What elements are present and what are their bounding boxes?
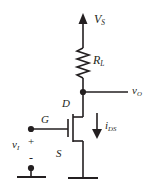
gate-label: G <box>41 114 49 125</box>
zigzag-resistor-icon <box>77 48 89 78</box>
schematic-svg <box>0 0 154 189</box>
drain-current-label: iDS <box>105 120 116 131</box>
supply-label: VS <box>94 13 105 25</box>
arrow-down-icon <box>92 129 102 139</box>
polarity-minus: - <box>29 152 33 164</box>
source-label: S <box>56 148 62 159</box>
input-label: vI <box>12 139 19 150</box>
terminal-dot-input-bottom <box>28 165 34 171</box>
output-label-sub: O <box>137 90 142 97</box>
terminal-dot-input-top <box>28 126 34 132</box>
output-label: vO <box>132 85 142 96</box>
circuit-diagram: VS RL vO D G S iDS vI + - <box>0 0 154 189</box>
supply-label-sub: S <box>101 18 105 27</box>
junction-dot-output <box>80 89 86 95</box>
drain-label: D <box>62 98 70 109</box>
arrow-up-icon <box>79 13 88 24</box>
load-resistor-label-sub: L <box>100 59 104 68</box>
input-label-sub: I <box>17 144 19 151</box>
drain-current-label-sub: DS <box>108 125 116 132</box>
polarity-plus: + <box>28 136 34 147</box>
load-resistor-label: RL <box>93 54 104 66</box>
